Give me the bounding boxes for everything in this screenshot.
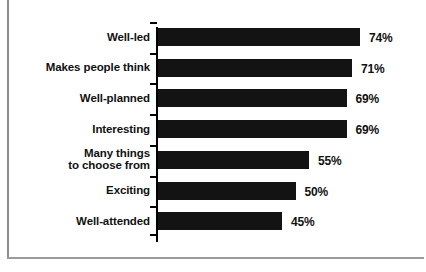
chart-page: Well-led74%Makes people think71%Well-pla… (0, 0, 426, 272)
bar-row: Well-attended45% (0, 212, 426, 230)
category-label-line: Makes people think (10, 61, 150, 74)
bar-value-label: 55% (318, 154, 341, 168)
bar-value-label: 71% (361, 62, 384, 76)
axis-tick (150, 53, 157, 55)
bar (158, 120, 347, 138)
bar-value-label: 45% (291, 215, 314, 229)
category-label-line: Well-attended (10, 215, 150, 228)
bar-value-label: 74% (369, 31, 392, 45)
axis-tick (150, 83, 157, 85)
bar-row: Makes people think71% (0, 59, 426, 77)
category-label: Well-planned (10, 92, 150, 105)
category-label-line: Many things (10, 147, 150, 160)
axis-tick (150, 145, 157, 147)
axis-tick (150, 176, 157, 178)
bar-row: Interesting69% (0, 120, 426, 138)
axis-tick (150, 206, 157, 208)
category-label-line: Interesting (10, 123, 150, 136)
category-label-line: Well-led (10, 31, 150, 44)
category-label-line: to choose from (10, 159, 150, 172)
horizontal-bar-chart: Well-led74%Makes people think71%Well-pla… (0, 0, 426, 259)
bar-value-label: 69% (356, 92, 379, 106)
bar-row: Many thingsto choose from55% (0, 151, 426, 169)
category-label: Makes people think (10, 61, 150, 74)
bar (158, 212, 282, 230)
bar-value-label: 50% (305, 185, 328, 199)
bar-row: Exciting50% (0, 182, 426, 200)
bar (158, 28, 360, 46)
bar (158, 182, 296, 200)
bar (158, 151, 309, 169)
category-label: Well-attended (10, 215, 150, 228)
category-label: Exciting (10, 184, 150, 197)
bar (158, 59, 352, 77)
axis-tick (150, 22, 157, 24)
category-label: Interesting (10, 123, 150, 136)
bar-row: Well-led74% (0, 28, 426, 46)
bar-row: Well-planned69% (0, 89, 426, 107)
bar-value-label: 69% (356, 123, 379, 137)
axis-tick (150, 234, 157, 236)
category-label-line: Well-planned (10, 92, 150, 105)
axis-tick (150, 114, 157, 116)
bar (158, 89, 347, 107)
category-label: Many thingsto choose from (10, 147, 150, 172)
category-label-line: Exciting (10, 184, 150, 197)
category-label: Well-led (10, 31, 150, 44)
